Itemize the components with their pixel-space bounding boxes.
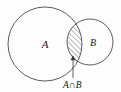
figure-background [0,0,121,92]
venn-diagram-figure: A B A∩B [0,0,121,92]
venn-diagram-canvas: A B A∩B [0,0,121,92]
set-a-label: A [41,38,49,50]
intersection-caption-label: A∩B [62,80,82,90]
set-b-label: B [90,37,96,48]
